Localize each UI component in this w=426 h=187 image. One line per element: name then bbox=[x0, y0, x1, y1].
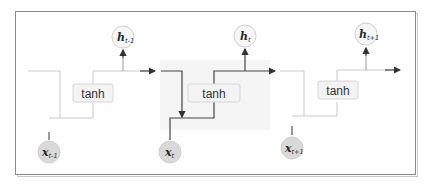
rnn-diagram: tanh ht-1 xt-1 tanh ht xt bbox=[0, 0, 426, 187]
tanh-label-1: tanh bbox=[81, 87, 104, 101]
tanh-label-3: tanh bbox=[326, 84, 349, 98]
tanh-label-2: tanh bbox=[202, 87, 225, 101]
